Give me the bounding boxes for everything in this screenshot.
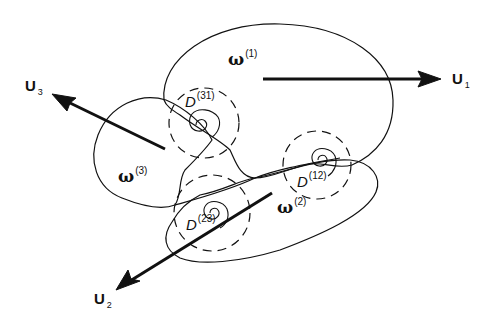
U1-index: 1 xyxy=(465,80,470,90)
arrow-U1-head-icon xyxy=(418,71,441,87)
label-U3: U3 xyxy=(25,77,43,97)
label-D12: D(12) xyxy=(297,170,327,190)
label-omega1: ω(1) xyxy=(228,48,257,69)
D23-symbol: D xyxy=(186,216,197,233)
U3-symbol: U xyxy=(25,77,36,94)
label-omega2: ω(2) xyxy=(277,196,306,217)
region-omega3-outline xyxy=(94,98,212,208)
label-U2: U2 xyxy=(94,290,112,310)
omega1-symbol: ω xyxy=(228,49,244,69)
label-D23: D(23) xyxy=(186,213,216,233)
D31-index: (31) xyxy=(197,90,215,101)
D12-index: (12) xyxy=(309,170,327,181)
U2-symbol: U xyxy=(94,290,105,307)
omega1-index: (1) xyxy=(245,48,257,59)
U2-index: 2 xyxy=(107,300,112,310)
D31-symbol: D xyxy=(185,93,196,110)
label-D31: D(31) xyxy=(185,90,215,110)
label-U1: U1 xyxy=(452,70,470,90)
D12-symbol: D xyxy=(297,173,308,190)
omega3-symbol: ω xyxy=(118,166,134,186)
spiral-D31-icon xyxy=(190,110,220,137)
vortex-diagram: ω(1) ω(3) ω(2) D(31) D(12) D(23) U1 U3 U… xyxy=(0,0,492,326)
omega2-symbol: ω xyxy=(277,197,293,217)
omega3-index: (3) xyxy=(135,165,147,176)
label-omega3: ω(3) xyxy=(118,165,147,186)
U1-symbol: U xyxy=(452,70,463,87)
arrow-U2-head-icon xyxy=(116,270,140,290)
D23-index: (23) xyxy=(198,213,216,224)
omega2-index: (2) xyxy=(294,196,306,207)
U3-index: 3 xyxy=(38,87,43,97)
